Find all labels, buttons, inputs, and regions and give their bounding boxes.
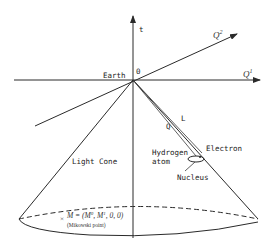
light-cone-label: Light Cone (72, 157, 118, 166)
earth-label: Earth (103, 71, 126, 80)
hydrogen-atom-orbit (188, 156, 204, 162)
electron-label: Electron (206, 144, 242, 153)
ray-q-label: Q (166, 122, 171, 131)
cone-base-back (19, 207, 258, 220)
nucleus-label: Nucleus (177, 173, 209, 182)
q1-axis-label: Q1 (243, 68, 253, 79)
atom-label: atom (152, 157, 171, 166)
q2-axis-label: Q2 (213, 29, 223, 40)
electron-dot (199, 156, 201, 158)
time-axis-label: t (139, 25, 144, 34)
ray-q (133, 80, 196, 156)
cone-left-edge (19, 80, 133, 219)
ray-l (133, 80, 202, 153)
hydrogen-label: Hydrogen (152, 148, 188, 157)
point-caption: (Mikowski point) (67, 222, 106, 229)
nucleus-pointer (185, 162, 195, 171)
point-marker: × (60, 215, 64, 223)
ray-l-label: L (181, 114, 186, 123)
cone-base-front (19, 219, 258, 236)
origin-label: 0 (136, 67, 141, 76)
light-cone-diagram: t Q1 Q2 Earth 0 L Q Hydrogen atom Electr… (0, 0, 273, 250)
point-formula: M = (M0, M1, 0, 0) (66, 211, 124, 220)
